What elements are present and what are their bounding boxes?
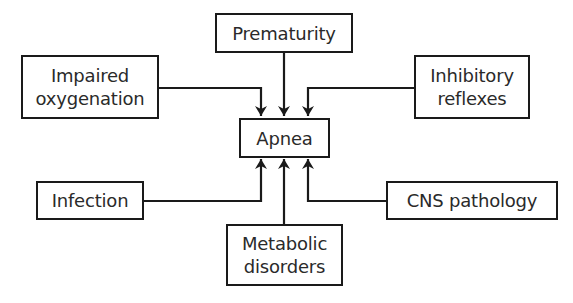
edge-infection-apnea <box>143 159 261 201</box>
edge-impaired-oxygenation-apnea <box>158 88 261 116</box>
node-inhibitory-reflexes: Inhibitory reflexes <box>414 55 530 119</box>
node-label-line-1: Impaired <box>51 64 129 87</box>
edge-inhibitory-reflexes-apnea <box>308 88 414 116</box>
node-label: Infection <box>52 189 129 212</box>
node-label-line-2: disorders <box>244 255 325 278</box>
edge-cns-pathology-apnea <box>308 159 386 201</box>
node-infection: Infection <box>36 181 144 220</box>
node-label-line-2: reflexes <box>437 87 506 110</box>
node-metabolic-disorders: Metabolic disorders <box>226 224 343 286</box>
node-label-line-1: Inhibitory <box>430 64 514 87</box>
node-label: Prematurity <box>232 22 336 45</box>
node-label-line-1: Metabolic <box>242 232 327 255</box>
node-prematurity: Prematurity <box>215 13 353 53</box>
node-label: Apnea <box>256 127 312 150</box>
node-label-line-2: oxygenation <box>36 87 145 110</box>
node-label: CNS pathology <box>407 189 538 212</box>
node-impaired-oxygenation: Impaired oxygenation <box>21 55 159 119</box>
node-cns-pathology: CNS pathology <box>386 181 558 220</box>
node-apnea: Apnea <box>239 118 330 158</box>
